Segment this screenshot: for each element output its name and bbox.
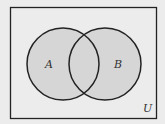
venn-diagram: A B U xyxy=(0,0,165,124)
set-b-label: B xyxy=(113,58,122,71)
universe-label: U xyxy=(143,102,153,115)
set-a-label: A xyxy=(44,58,53,71)
